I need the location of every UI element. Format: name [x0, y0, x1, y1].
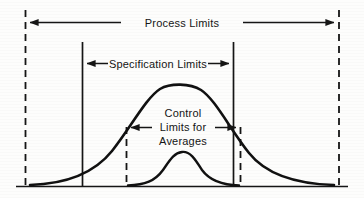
specification-limits-label: Specification Limits — [109, 58, 207, 70]
control-limits-label-line1: Control — [165, 107, 202, 119]
control-limits-label-line2: Limits for — [160, 121, 207, 133]
process-limits-label: Process Limits — [145, 17, 220, 29]
process-capability-figure: Process Limits Specification Limits Cont… — [0, 0, 364, 198]
control-limits-label-line3: Averages — [159, 135, 207, 147]
averages-distribution-curve — [128, 152, 239, 186]
diagram-canvas: Process Limits Specification Limits Cont… — [0, 0, 364, 198]
